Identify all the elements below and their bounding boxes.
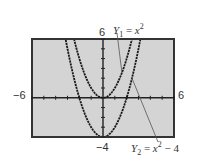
y-max-label: 6 (99, 27, 105, 38)
x-min-label: −6 (13, 90, 26, 101)
y2-equation-label: Y2 = x2 − 4 (131, 141, 179, 157)
y1-equation-label: Y1 = x2 (113, 23, 144, 39)
y-min-label: −4 (96, 142, 109, 153)
x-max-label: 6 (178, 90, 184, 101)
graph-canvas (0, 0, 202, 164)
